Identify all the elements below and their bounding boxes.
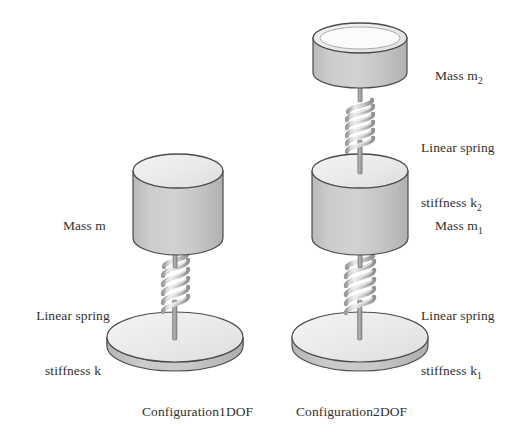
label-mass-m2-subscript: 2 (478, 76, 483, 86)
label-spring-k2-line1: Linear spring (421, 139, 495, 157)
label-spring-k1-line1: Linear spring (421, 307, 495, 325)
label-spring-1dof-line1: Linear spring (19, 307, 127, 325)
caption-2dof: Configuration2DOF (296, 404, 407, 420)
label-mass-m1-text: Mass m (435, 218, 478, 233)
label-mass-m1-subscript: 1 (478, 226, 483, 236)
config-2dof-group (292, 23, 428, 371)
label-spring-k1-line2-wrap: stiffness k1 (421, 362, 495, 380)
label-mass-m2-text: Mass m (435, 68, 478, 83)
caption-1dof: Configuration1DOF (142, 404, 253, 420)
config-1dof-group (107, 154, 243, 371)
mass-m-cylinder (133, 154, 223, 255)
label-mass-m2: Mass m2 (421, 49, 483, 104)
label-mass-1dof-text: Mass m (63, 218, 106, 233)
label-spring-k1: Linear spring stiffness k1 (421, 271, 495, 417)
label-mass-m1: Mass m1 (421, 199, 483, 254)
label-spring-1dof: Linear spring stiffness k (19, 271, 127, 417)
diagram-canvas: Mass m Linear spring stiffness k Mass m2… (0, 0, 522, 441)
label-spring-k1-subscript: 1 (477, 371, 482, 381)
label-mass-1dof: Mass m (49, 199, 106, 254)
mass-m2-cylinder (313, 23, 407, 88)
label-spring-k1-line2: stiffness k (421, 363, 477, 378)
label-spring-1dof-line2: stiffness k (19, 362, 127, 380)
